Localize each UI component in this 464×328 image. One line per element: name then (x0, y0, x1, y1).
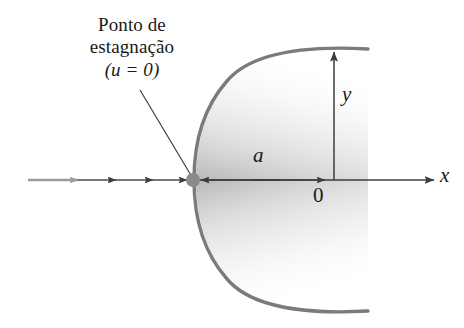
y-axis-label: y (342, 82, 351, 107)
callout-line-3: (u = 0) (62, 59, 202, 81)
x-axis-label: x (440, 163, 449, 188)
origin-label: 0 (313, 183, 324, 208)
stagnation-point-flow-figure: Ponto de estagnação (u = 0) x y a 0 (0, 0, 464, 328)
stagnation-point-callout: Ponto de estagnação (u = 0) (62, 14, 202, 81)
callout-line-1: Ponto de (62, 14, 202, 36)
stagnation-point-dot (186, 173, 200, 187)
body-shade-upper (196, 49, 368, 180)
body-shade-lower (196, 180, 368, 311)
callout-line-2: estagnação (62, 36, 202, 58)
callout-leader-line (140, 90, 192, 177)
dimension-label-a: a (253, 143, 264, 168)
